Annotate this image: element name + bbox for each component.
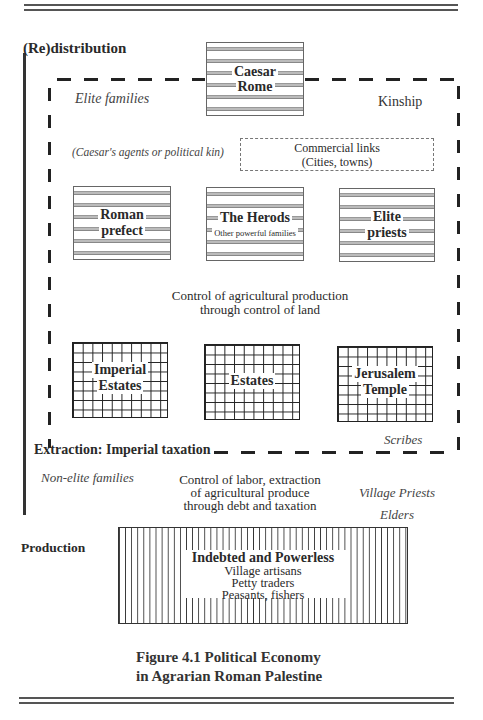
jerusalem-temple-box: Jerusalem Temple xyxy=(337,346,433,422)
axis-line xyxy=(23,53,26,515)
scribes-label: Scribes xyxy=(384,432,422,448)
figure-caption: Figure 4.1 Political Economy in Agrarian… xyxy=(136,648,322,686)
extraction-label: Extraction: Imperial taxation xyxy=(34,442,211,458)
bottom-rule-inner xyxy=(19,702,454,704)
agents-note: (Caesar's agents or political kin) xyxy=(72,146,224,158)
top-rule xyxy=(24,4,458,6)
kinship-label: Kinship xyxy=(378,94,422,110)
land-control-text: Control of agricultural production throu… xyxy=(100,289,420,317)
caesar-rome-box: Caesar Rome xyxy=(206,42,304,116)
non-elite-families-label: Non-elite families xyxy=(41,470,134,486)
elite-boundary-right xyxy=(457,86,460,456)
imperial-label: Imperial xyxy=(92,362,148,378)
indebted-powerless-box: Indebted and Powerless Village artisans … xyxy=(118,527,408,624)
powerless-title: Indebted and Powerless xyxy=(119,550,407,565)
elders-label: Elders xyxy=(352,504,442,526)
powerful-families-label: Other powerful families xyxy=(212,227,298,240)
elite-boundary-top-left xyxy=(57,78,205,81)
herods-box: The Herods Other powerful families xyxy=(206,187,304,261)
roman-prefect-box: Roman prefect xyxy=(73,186,171,260)
temple-label: Temple xyxy=(361,382,409,398)
top-rule-inner xyxy=(24,9,458,11)
elite-families-label: Elite families xyxy=(75,91,149,107)
caesar-label: Caesar xyxy=(232,64,278,79)
estates-label: Estates xyxy=(229,373,276,389)
commercial-links-box: Commercial links (Cities, towns) xyxy=(240,138,434,171)
commercial-links-label: Commercial links xyxy=(241,141,433,155)
estates-box: Estates xyxy=(204,344,300,420)
elite-label: Elite xyxy=(371,209,403,225)
roman-label: Roman xyxy=(98,207,146,223)
priests-label: priests xyxy=(365,225,409,241)
herods-label: The Herods xyxy=(218,211,292,224)
elite-boundary-bottom xyxy=(214,451,454,454)
imperial-estates-box: Imperial Estates xyxy=(72,342,168,418)
elite-priests-box: Elite priests xyxy=(339,188,435,262)
rome-label: Rome xyxy=(236,79,275,94)
bottom-rule xyxy=(19,697,454,699)
prefect-label: prefect xyxy=(99,223,145,239)
village-priests-label: Village Priests xyxy=(352,482,442,504)
village-leaders: Village Priests Elders xyxy=(352,482,442,526)
cities-towns-label: (Cities, towns) xyxy=(241,155,433,169)
labor-control-text: Control of labor, extraction of agricult… xyxy=(165,473,335,512)
production-label: Production xyxy=(21,540,85,556)
jerusalem-label: Jerusalem xyxy=(352,366,417,382)
elite-boundary-top-right xyxy=(305,78,460,81)
elite-boundary-left xyxy=(48,88,51,448)
redistribution-label: (Re)distribution xyxy=(23,40,126,57)
peasants-label: Peasants, fishers xyxy=(119,589,407,601)
estates-label: Estates xyxy=(97,378,144,394)
